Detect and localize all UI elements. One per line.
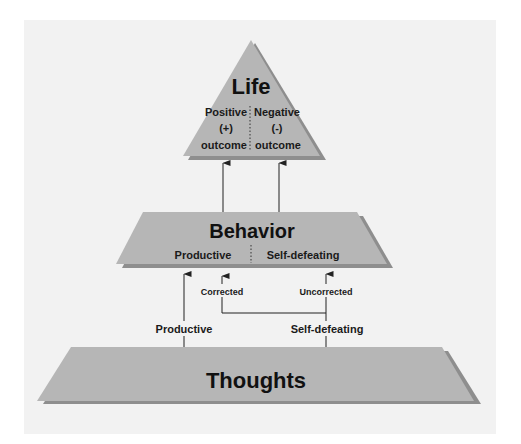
life-title: Life: [231, 74, 270, 99]
self-defeating-thought-label: Self-defeating: [291, 323, 364, 335]
behavior-trapezoid: Behavior Productive Self-defeating: [116, 212, 393, 268]
negative-outcome: outcome: [255, 139, 301, 151]
behavior-title: Behavior: [209, 220, 295, 242]
positive-label: Positive: [205, 106, 247, 118]
productive-thought-label: Productive: [156, 323, 213, 335]
thoughts-behavior-life-pyramid-diagram: Life Positive (+) outcome Negative (-) o…: [0, 0, 521, 444]
negative-sign: (-): [272, 122, 283, 134]
positive-sign: (+): [219, 122, 233, 134]
behavior-productive-label: Productive: [175, 249, 232, 261]
thoughts-trapezoid: Thoughts: [37, 347, 481, 404]
behavior-self-defeating-label: Self-defeating: [267, 249, 340, 261]
positive-outcome: outcome: [201, 139, 247, 151]
thoughts-title: Thoughts: [206, 368, 306, 393]
corrected-label: Corrected: [201, 287, 244, 297]
negative-label: Negative: [254, 106, 300, 118]
uncorrected-label: Uncorrected: [299, 287, 352, 297]
